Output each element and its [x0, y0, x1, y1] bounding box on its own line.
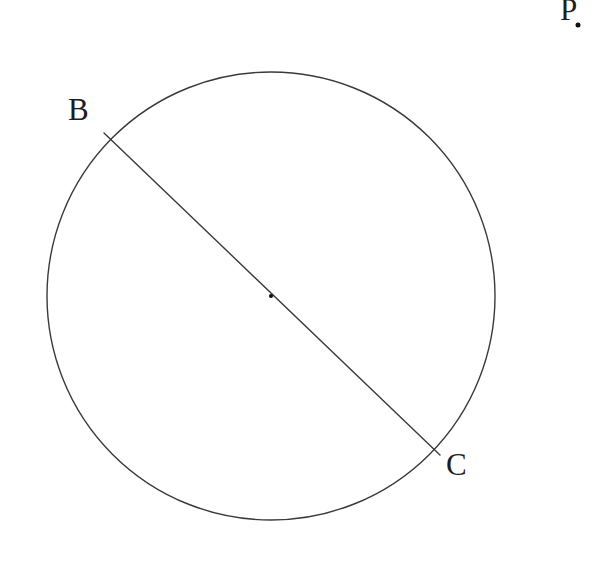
diameter-segment-bc	[104, 133, 440, 455]
geometry-figure: B C P	[0, 0, 612, 563]
point-label-b: B	[68, 94, 89, 125]
point-label-p: P	[560, 0, 577, 25]
point-label-c: C	[446, 449, 467, 480]
geometry-drawing	[0, 0, 612, 563]
circle-center-dot	[269, 294, 273, 298]
